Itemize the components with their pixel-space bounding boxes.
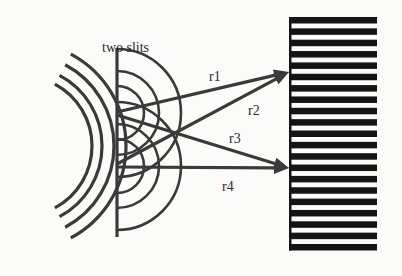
arrowhead-icon bbox=[273, 72, 289, 84]
fringe-bar bbox=[289, 153, 377, 160]
screen-edge bbox=[289, 17, 292, 251]
fringe-bar bbox=[289, 199, 377, 206]
fringe-bar bbox=[289, 244, 377, 251]
incident-wavefronts bbox=[55, 54, 126, 238]
double-slit-diagram: two slits r1 r2 r3 r4 bbox=[0, 0, 402, 276]
ray-label-r4: r4 bbox=[222, 180, 234, 194]
fringe-bar bbox=[289, 40, 377, 47]
fringe-bar bbox=[289, 165, 377, 172]
fringe-bar bbox=[289, 131, 377, 138]
fringe-bar bbox=[289, 74, 377, 81]
fringe-bar bbox=[289, 96, 377, 103]
ray-label-r3: r3 bbox=[229, 132, 241, 146]
diagram-canvas bbox=[0, 0, 402, 276]
ray-label-r1: r1 bbox=[209, 70, 221, 84]
fringe-bar bbox=[289, 221, 377, 228]
fringe-bar bbox=[289, 142, 377, 149]
fringe-bar bbox=[289, 17, 377, 24]
fringe-bar bbox=[289, 187, 377, 194]
fringe-bar bbox=[289, 176, 377, 183]
fringe-bar bbox=[289, 85, 377, 92]
incident-wave-arc bbox=[65, 65, 114, 227]
fringe-bar bbox=[289, 119, 377, 126]
ray-label-r2: r2 bbox=[248, 104, 260, 118]
fringe-bar bbox=[289, 108, 377, 115]
incident-wave-arc bbox=[55, 84, 92, 208]
fringe-bar bbox=[289, 62, 377, 69]
fringe-bar bbox=[289, 28, 377, 34]
fringe-screen bbox=[289, 17, 377, 251]
incident-wave-arc bbox=[60, 75, 102, 216]
two-slits-label: two slits bbox=[102, 41, 149, 55]
diffracted-wavefronts bbox=[117, 49, 181, 230]
fringe-bar bbox=[289, 210, 377, 217]
fringe-bar bbox=[289, 233, 377, 240]
fringe-bar bbox=[289, 51, 377, 58]
ray-r4 bbox=[117, 167, 274, 168]
